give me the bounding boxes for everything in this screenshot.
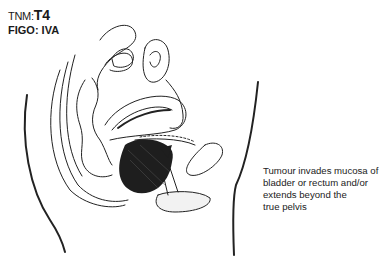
pelvis-illustration: [0, 0, 389, 271]
caption-line-4: true pelvis: [263, 201, 387, 213]
body-contour-right: [233, 82, 258, 255]
caption: Tumour invades mucosa of bladder or rect…: [263, 165, 387, 213]
body-contour-left: [25, 95, 65, 252]
caption-line-1: Tumour invades mucosa of: [263, 165, 387, 177]
caption-line-3: extends beyond the: [263, 189, 387, 201]
tumour-mass: [119, 139, 173, 193]
caption-line-2: bladder or rectum and/or: [263, 177, 387, 189]
